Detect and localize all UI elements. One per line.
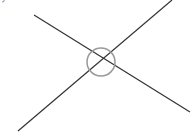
diagram-canvas: ア [0,0,195,137]
intersection-circle [87,48,115,76]
crossing-lines-figure [0,0,195,137]
clipped-top-label: ア [0,0,10,5]
